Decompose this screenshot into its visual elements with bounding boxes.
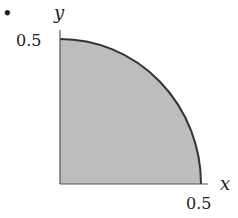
y-axis-label: y xyxy=(53,2,65,23)
shaded-region xyxy=(60,39,201,184)
quarter-circle-diagram: • y 0.5 x 0.5 xyxy=(0,0,238,218)
x-tick-label: 0.5 xyxy=(186,194,211,213)
y-tick-label: 0.5 xyxy=(16,31,41,50)
x-axis-label: x xyxy=(220,173,230,194)
bullet-marker: • xyxy=(2,3,13,24)
